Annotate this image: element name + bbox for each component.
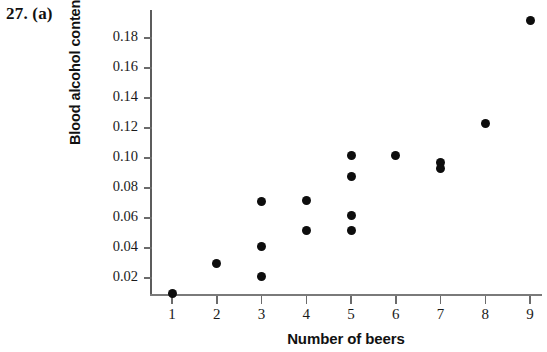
data-point <box>391 151 400 160</box>
x-axis-tick <box>350 296 352 304</box>
y-axis-tick <box>144 37 152 39</box>
data-point <box>168 289 177 298</box>
y-axis-tick-label: 0.06 <box>92 208 138 225</box>
data-point <box>526 16 535 25</box>
y-axis-tick-label: 0.12 <box>92 118 138 135</box>
x-axis-title: Number of beers <box>150 330 542 347</box>
data-point <box>302 196 311 205</box>
y-axis-tick-label: 0.04 <box>92 238 138 255</box>
y-axis-tick <box>144 97 152 99</box>
x-axis-tick-label: 1 <box>158 306 186 323</box>
x-axis-tick-label: 8 <box>471 306 499 323</box>
x-axis-tick-label: 6 <box>382 306 410 323</box>
data-point <box>347 151 356 160</box>
data-point <box>347 211 356 220</box>
data-point <box>257 272 266 281</box>
data-point <box>347 226 356 235</box>
data-point <box>302 226 311 235</box>
y-axis-tick <box>144 187 152 189</box>
x-axis-tick-label: 9 <box>516 306 544 323</box>
data-point <box>257 242 266 251</box>
y-axis-tick <box>144 127 152 129</box>
x-axis-tick-label: 3 <box>248 306 276 323</box>
y-axis-tick <box>144 67 152 69</box>
y-axis-tick-label: 0.14 <box>92 88 138 105</box>
y-axis-tick-label: 0.10 <box>92 148 138 165</box>
x-axis-tick-label: 4 <box>292 306 320 323</box>
x-axis-tick-label: 5 <box>337 306 365 323</box>
plot-area: 0.020.040.060.080.100.120.140.160.18 123… <box>0 0 547 352</box>
y-axis-tick-label: 0.08 <box>92 178 138 195</box>
x-axis-tick <box>306 296 308 304</box>
y-axis-tick-label: 0.16 <box>92 58 138 75</box>
x-axis-tick-label: 2 <box>203 306 231 323</box>
x-axis-tick <box>529 296 531 304</box>
y-axis-tick <box>144 277 152 279</box>
x-axis-tick <box>216 296 218 304</box>
x-axis-tick-label: 7 <box>427 306 455 323</box>
y-axis-tick-label: 0.02 <box>92 268 138 285</box>
y-axis-tick <box>144 247 152 249</box>
data-point <box>481 119 490 128</box>
y-axis-line <box>150 10 152 296</box>
y-axis-tick-label: 0.18 <box>92 28 138 45</box>
scatter-plot-figure: 27. (a) 0.020.040.060.080.100.120.140.16… <box>0 0 547 352</box>
y-axis-title: Blood alcohol content <box>67 0 83 170</box>
data-point <box>257 197 266 206</box>
x-axis-line <box>150 294 542 296</box>
x-axis-tick <box>395 296 397 304</box>
y-axis-tick <box>144 217 152 219</box>
data-point <box>347 172 356 181</box>
data-point <box>436 164 445 173</box>
x-axis-tick <box>485 296 487 304</box>
data-point <box>212 259 221 268</box>
x-axis-tick <box>261 296 263 304</box>
x-axis-tick <box>440 296 442 304</box>
y-axis-tick <box>144 157 152 159</box>
